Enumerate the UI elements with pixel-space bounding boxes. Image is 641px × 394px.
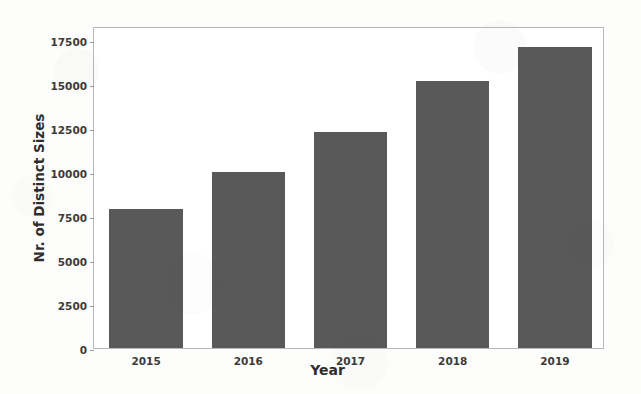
y-tick-mark <box>90 218 94 219</box>
y-tick-label: 12500 <box>50 124 87 136</box>
bar <box>314 132 388 348</box>
y-axis-label: Nr. of Distinct Sizes <box>31 27 47 349</box>
x-axis-label-text: Year <box>310 362 345 378</box>
plot-area: 025005000750010000125001500017500 201520… <box>93 27 604 349</box>
y-tick-label: 2500 <box>58 300 87 312</box>
y-tick-mark <box>90 42 94 43</box>
y-tick-label: 17500 <box>50 36 87 48</box>
bar <box>109 209 183 348</box>
y-tick-label: 5000 <box>58 256 87 268</box>
y-tick-mark <box>90 306 94 307</box>
y-tick-label: 0 <box>80 344 87 356</box>
bar-chart-figure: 025005000750010000125001500017500 201520… <box>0 0 641 394</box>
bar <box>416 81 490 348</box>
y-tick-mark <box>90 350 94 351</box>
y-tick-label: 7500 <box>58 212 87 224</box>
bar <box>518 47 592 348</box>
y-tick-label: 15000 <box>50 80 87 92</box>
bar <box>212 172 286 348</box>
y-tick-mark <box>90 86 94 87</box>
y-tick-mark <box>90 130 94 131</box>
y-tick-mark <box>90 174 94 175</box>
y-tick-mark <box>90 262 94 263</box>
y-tick-label: 10000 <box>50 168 87 180</box>
x-axis-label: Year <box>0 362 641 378</box>
